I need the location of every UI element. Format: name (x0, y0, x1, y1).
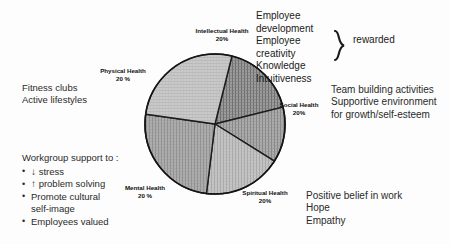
pie-label-physical-health-pct: 20 % (86, 75, 160, 83)
list-item: ↑ problem solving (22, 178, 118, 191)
list-item: Employees valued (22, 216, 118, 229)
pie-label-mental-health: Mental Health 20 % (112, 184, 178, 200)
annotation-social-health: Team building activities Supportive envi… (331, 84, 437, 121)
list-item-label: Employees valued (31, 216, 109, 227)
annotation-physical-line-2: Active lifestyles (22, 94, 87, 106)
annotation-spiritual-line-3: Empathy (306, 215, 402, 227)
pie-label-mental-health-pct: 20 % (112, 192, 178, 200)
pie-label-social-health-text: Social Health (280, 101, 319, 108)
pie-label-spiritual-health-text: Spiritual Health (242, 189, 287, 196)
list-item-label: self-image (31, 203, 75, 214)
list-item-label: Promote cultural (31, 191, 100, 202)
annotation-social-line-3: for growth/self-esteem (331, 109, 437, 121)
list-item: Promote cultural (22, 191, 118, 204)
pie-label-social-health: Social Health 20% (268, 101, 330, 117)
annotation-social-line-1: Team building activities (331, 84, 437, 96)
pie-label-intellectual-health-text: Intellectual Health (196, 27, 249, 34)
annotation-physical-health: Fitness clubs Active lifestyles (22, 82, 87, 105)
pie-chart-slide: Intellectual Health 20% Physical Health … (0, 0, 450, 244)
pie-label-physical-health: Physical Health 20 % (86, 67, 160, 83)
list-item-label: stress (39, 166, 64, 177)
annotation-intellectual-line-4: Intuitiveness (256, 73, 313, 86)
pie-label-social-health-pct: 20% (268, 109, 330, 117)
annotation-intellectual-lines: Employee development Employee creativity… (256, 10, 313, 86)
annotation-intellectual-result: rewarded (353, 34, 395, 45)
annotation-spiritual-line-1: Positive belief in work (306, 190, 402, 202)
annotation-physical-line-1: Fitness clubs (22, 82, 87, 94)
pie-label-intellectual-health-pct: 20% (182, 35, 262, 43)
curly-brace-right-icon (333, 30, 347, 62)
pie-label-spiritual-health: Spiritual Health 20% (230, 189, 300, 205)
list-item-continuation: self-image (22, 203, 118, 216)
up-arrow-icon: ↑ (31, 178, 36, 189)
down-arrow-icon: ↓ (31, 166, 36, 177)
list-item-label: problem solving (39, 178, 106, 189)
annotation-intellectual-line-3: Knowledge (256, 60, 313, 73)
annotation-mental-list: ↓ stress ↑ problem solving Promote cultu… (22, 166, 118, 229)
annotation-spiritual-health: Positive belief in work Hope Empathy (306, 190, 402, 227)
annotation-intellectual-line-2: Employee creativity (256, 35, 313, 60)
annotation-social-line-2: Supportive environment (331, 96, 437, 108)
pie-label-physical-health-text: Physical Health (100, 67, 146, 74)
annotation-intellectual-line-1: Employee development (256, 10, 313, 35)
annotation-mental-heading: Workgroup support to : (22, 152, 118, 165)
pie-slice-mental-health[interactable] (145, 114, 215, 193)
pie-label-mental-health-text: Mental Health (125, 184, 165, 191)
pie-label-intellectual-health: Intellectual Health 20% (182, 27, 262, 43)
list-item: ↓ stress (22, 166, 118, 179)
pie-label-spiritual-health-pct: 20% (230, 197, 300, 205)
annotation-spiritual-line-2: Hope (306, 202, 402, 214)
annotation-mental-health: Workgroup support to : ↓ stress ↑ proble… (22, 152, 118, 228)
